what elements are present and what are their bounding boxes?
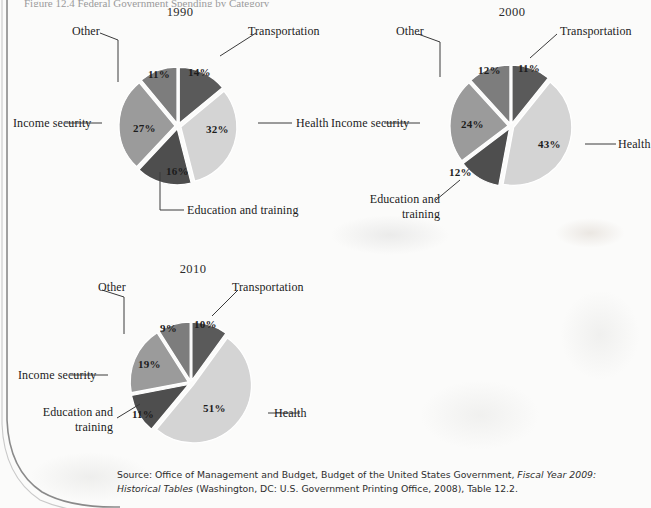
value-income-security-2010: 19% [138,358,161,370]
label-education-2000: Education and training [364,192,440,221]
label-other-2010: Other [98,280,126,295]
label-income-security-1990: Income security [13,116,91,131]
value-education-2000: 12% [449,166,472,178]
leader-lines-2010 [60,278,330,478]
label-income-security-2000b: Income security [331,116,409,131]
value-transportation-1990: 14% [188,66,211,78]
source-part-2: (Washington, DC: U.S. Government Printin… [193,483,518,494]
label-other-2000: Other [396,24,424,39]
label-health-2010: Health [274,406,307,421]
value-other-1990: 11% [148,68,170,80]
label-transportation-2000: Transportation [560,24,632,39]
label-income-security-2010: Income security [18,368,96,383]
value-transportation-2010: 10% [194,318,217,330]
source-part-1: Source: Office of Management and Budget,… [117,469,517,480]
label-transportation-1990: Transportation [248,24,320,39]
scan-artifact [560,290,640,380]
value-other-2010: 9% [160,322,177,334]
value-health-2010: 51% [203,402,226,414]
label-health-1990: Health [296,116,329,131]
leader-education [160,172,184,210]
value-other-2000: 12% [478,64,501,76]
value-education-1990: 16% [166,165,189,177]
label-education-1990: Education and training [187,203,299,218]
label-health-2000: Health [618,137,651,152]
scan-artifact [420,380,540,450]
value-health-2000: 43% [538,138,561,150]
label-transportation-2010: Transportation [232,280,304,295]
value-health-1990: 32% [206,123,229,135]
leader-other [100,33,118,82]
value-education-2010: 11% [132,408,154,420]
value-income-security-1990: 27% [133,122,156,134]
leader-other [418,34,440,77]
leader-other [102,290,124,334]
value-income-security-2000: 24% [461,118,484,130]
value-transportation-2000: 11% [518,62,540,74]
source-caption: Source: Office of Management and Budget,… [117,468,629,497]
label-other-1990: Other [72,24,100,39]
label-education-2010: Education and training [33,405,113,434]
leader-transportation [530,34,557,58]
